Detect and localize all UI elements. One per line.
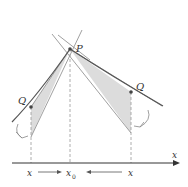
axis-label-x: x xyxy=(172,150,177,160)
x-axis-arrowhead xyxy=(173,160,180,166)
right-secant-line-1 xyxy=(52,34,131,133)
left-rotation-arc xyxy=(17,124,22,138)
right-approach-arrowhead xyxy=(86,170,91,174)
secant-tangent-diagram: P Q Q x x x 0 x xyxy=(0,0,188,187)
label-Q-right: Q xyxy=(136,81,144,92)
left-secant-line-1 xyxy=(31,30,82,137)
left-rotation-arrowhead xyxy=(16,132,28,138)
tick-label-x0: x xyxy=(66,168,71,178)
right-rotation-arc xyxy=(140,110,149,127)
tick-label-x-right: x xyxy=(128,168,133,178)
label-P: P xyxy=(75,43,83,54)
right-secant-wedge xyxy=(70,49,131,133)
tick-label-x0-subscript: 0 xyxy=(72,173,76,180)
point-P xyxy=(68,47,72,51)
right-rotation-arrowhead xyxy=(134,122,144,127)
point-Q-left xyxy=(29,105,33,109)
tick-label-x-left: x xyxy=(27,168,32,178)
label-Q-left: Q xyxy=(18,95,26,106)
left-approach-arrowhead xyxy=(57,170,62,174)
point-Q-right xyxy=(129,90,133,94)
